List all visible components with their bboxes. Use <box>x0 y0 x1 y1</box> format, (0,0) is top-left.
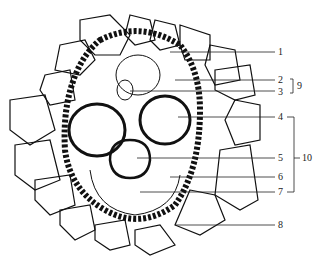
label-8: 8 <box>278 220 283 230</box>
phloem <box>116 55 160 95</box>
label-3: 3 <box>278 87 283 97</box>
vascular-bundle-diagram <box>0 0 322 265</box>
metaxylem-right <box>140 96 190 144</box>
vascular-bundle <box>65 31 200 219</box>
label-1: 1 <box>278 47 283 57</box>
label-6: 6 <box>278 172 283 182</box>
label-4: 4 <box>278 112 283 122</box>
label-7: 7 <box>278 187 283 197</box>
label-5: 5 <box>278 153 283 163</box>
protoxylem <box>110 140 150 178</box>
metaxylem-left <box>69 104 125 156</box>
label-9: 9 <box>297 81 302 91</box>
label-2: 2 <box>278 75 283 85</box>
label-10: 10 <box>302 153 312 163</box>
